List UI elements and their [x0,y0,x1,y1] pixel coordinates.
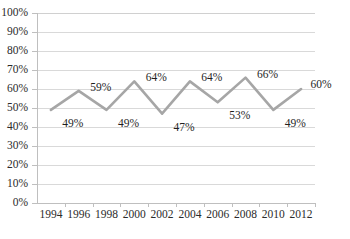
x-axis-tick [65,203,66,207]
x-axis-tick-label: 2010 [262,209,285,221]
gridline [37,108,315,109]
data-point-label: 49% [285,118,306,130]
y-axis-tick-label: 10% [7,178,28,190]
data-point-label: 66% [257,69,278,81]
data-point-label: 49% [118,118,139,130]
y-axis-line [37,13,38,203]
y-axis-tick-label: 80% [7,45,28,57]
gridline [37,165,315,166]
y-axis-tick-label: 70% [7,64,28,76]
y-axis-tick-label: 30% [7,140,28,152]
x-axis-tick [232,203,233,207]
x-axis-tick [93,203,94,207]
x-axis-tick-label: 2006 [206,209,229,221]
gridline [37,13,315,14]
x-axis-tick-label: 1996 [67,209,90,221]
x-axis-tick-label: 2008 [234,209,257,221]
gridline [37,146,315,147]
gridline [37,32,315,33]
y-axis-tick-label: 90% [7,26,28,38]
data-point-label: 64% [201,73,222,85]
plot-area [37,13,315,203]
y-axis-tick [32,89,37,90]
gridline [37,89,315,90]
data-point-label: 53% [229,111,250,123]
line-chart: 100%90%80%70%60%50%40%30%20%10%0% 199419… [0,0,350,239]
y-axis-tick [32,146,37,147]
y-axis-tick [32,70,37,71]
x-axis-tick-label: 2004 [178,209,201,221]
y-axis-tick-label: 20% [7,159,28,171]
y-axis-tick [32,13,37,14]
y-axis-tick [32,203,37,204]
y-axis-tick [32,32,37,33]
y-axis-tick [32,184,37,185]
y-axis-tick [32,127,37,128]
y-axis-tick-label: 40% [7,121,28,133]
x-axis-tick-label: 1998 [95,209,118,221]
x-axis-tick [148,203,149,207]
x-axis-tick [204,203,205,207]
x-axis-tick [176,203,177,207]
data-point-label: 49% [62,118,83,130]
data-point-label: 60% [311,79,332,91]
x-axis-tick [315,203,316,207]
data-point-label: 47% [174,122,195,134]
gridline [37,51,315,52]
y-axis-tick [32,51,37,52]
x-axis-tick [120,203,121,207]
x-axis-tick-label: 2000 [123,209,146,221]
data-point-label: 59% [90,82,111,94]
x-axis-tick-label: 2012 [290,209,313,221]
y-axis-tick-label: 60% [7,83,28,95]
x-axis-tick [259,203,260,207]
x-axis-tick-label: 1994 [39,209,62,221]
x-axis-tick [287,203,288,207]
x-axis-tick-label: 2002 [151,209,174,221]
gridline [37,184,315,185]
data-point-label: 64% [146,73,167,85]
y-axis-tick-label: 0% [13,197,28,209]
y-axis-tick [32,165,37,166]
y-axis-tick [32,108,37,109]
y-axis-tick-label: 50% [7,102,28,114]
y-axis-tick-label: 100% [1,7,28,19]
